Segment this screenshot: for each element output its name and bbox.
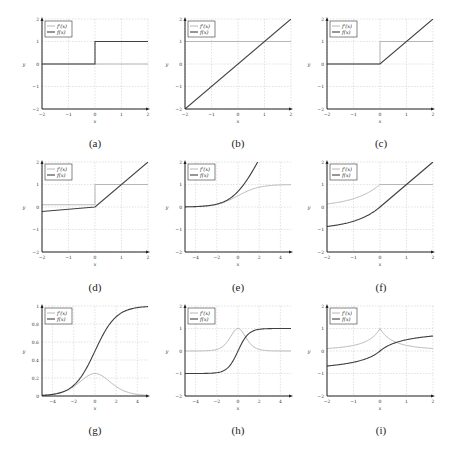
x-axis-arrow-icon [289,108,293,111]
x-axis-arrow-icon [431,251,435,254]
plots-canvas: −2−1012−2−1012xyf'(x)f(x)−2−1012−2−1012x… [0,0,452,454]
x-tick-label: 4 [136,399,139,404]
y-tick-label: 2 [179,160,182,165]
y-tick-label: 2 [321,304,324,309]
legend-function-label: f(x) [199,316,209,323]
x-tick-label: 1 [263,112,266,117]
y-axis-label: y [22,204,26,211]
x-tick-label: −1 [208,112,215,117]
y-tick-label: −1 [32,227,39,232]
legend: f'(x)f(x) [188,164,215,180]
x-tick-label: 4 [279,399,282,404]
x-tick-label: −2 [39,255,46,260]
x-tick-label: 2 [432,399,435,404]
x-axis-label: x [379,261,382,267]
plot-h: −4−2024−2−1012xyf'(x)f(x) [165,304,293,412]
x-tick-label: 2 [147,255,150,260]
legend-function-label: f(x) [56,316,66,323]
y-tick-label: 2 [179,17,182,22]
y-tick-label: 0 [321,205,324,210]
y-tick-label: 0 [36,62,39,67]
x-tick-label: −1 [350,255,357,260]
x-tick-label: 0 [379,112,382,117]
activation-function-figure: −2−1012−2−1012xyf'(x)f(x)−2−1012−2−1012x… [0,0,452,454]
x-axis-arrow-icon [289,395,293,398]
x-tick-label: 4 [279,255,282,260]
x-tick-label: 0 [237,112,240,117]
caption-a: (a) [75,137,115,149]
caption-b: (b) [218,137,258,149]
y-tick-label: 1 [321,326,324,331]
y-tick-label: 0.2 [32,376,39,381]
y-tick-label: −2 [175,107,182,112]
y-tick-label: −1 [317,227,324,232]
x-tick-label: −1 [65,255,72,260]
legend-function-label: f(x) [199,172,209,179]
legend-function-label: f(x) [199,29,209,36]
y-axis-label: y [22,348,26,355]
y-axis-label: y [22,61,26,68]
plot-d: −2−1012−2−1012xyf'(x)f(x) [22,160,150,268]
x-tick-label: −2 [324,399,331,404]
x-tick-label: 1 [405,255,408,260]
y-axis-label: y [307,61,311,68]
x-tick-label: 0 [94,399,97,404]
function-curve [42,42,148,65]
x-tick-label: −2 [39,112,46,117]
x-tick-label: 0 [94,112,97,117]
plot-g: −4−202400.20.40.60.81xyf'(x)f(x) [22,304,150,412]
derivative-curve [327,42,433,65]
plot-i: −2−1012−2−1012xyf'(x)f(x) [307,304,435,412]
legend: f'(x)f(x) [45,21,72,37]
y-tick-label: 0 [321,349,324,354]
x-axis-label: x [237,118,240,124]
x-axis-arrow-icon [431,395,435,398]
x-axis-label: x [237,405,240,411]
y-tick-label: −2 [317,394,324,399]
y-tick-label: 0 [179,349,182,354]
y-tick-label: −2 [175,250,182,255]
y-tick-label: 2 [321,160,324,165]
y-tick-label: 0 [179,205,182,210]
y-tick-label: 1 [36,39,39,44]
y-tick-label: 1 [179,326,182,331]
y-tick-label: 1 [36,304,39,309]
y-tick-label: 2 [321,17,324,22]
x-tick-label: 1 [405,399,408,404]
x-tick-label: 1 [120,255,123,260]
x-tick-label: 2 [432,112,435,117]
x-axis-label: x [379,405,382,411]
legend-function-label: f(x) [56,29,66,36]
x-tick-label: 2 [290,112,293,117]
y-tick-label: −1 [32,84,39,89]
caption-e: (e) [218,281,258,293]
x-tick-label: 1 [405,112,408,117]
x-tick-label: −2 [213,399,220,404]
x-tick-label: −1 [350,112,357,117]
x-axis-arrow-icon [146,251,150,254]
x-axis-arrow-icon [146,108,150,111]
y-tick-label: −1 [175,371,182,376]
x-tick-label: 2 [147,112,150,117]
legend: f'(x)f(x) [188,308,215,324]
caption-i: (i) [361,424,401,436]
y-tick-label: −2 [32,107,39,112]
x-tick-label: −4 [192,255,199,260]
y-tick-label: −2 [32,250,39,255]
x-tick-label: 0 [379,255,382,260]
y-tick-label: 0 [36,205,39,210]
legend: f'(x)f(x) [188,21,215,37]
legend-function-label: f(x) [341,172,351,179]
x-axis-label: x [94,118,97,124]
caption-g: (g) [75,424,115,436]
legend: f'(x)f(x) [330,308,357,324]
caption-d: (d) [75,281,115,293]
legend-function-label: f(x) [56,172,66,179]
derivative-curve [42,185,148,205]
y-axis-label: y [307,348,311,355]
x-tick-label: 2 [432,255,435,260]
x-tick-label: −2 [70,399,77,404]
plot-c: −2−1012−2−1012xyf'(x)f(x) [307,17,435,125]
y-tick-label: 0.6 [32,340,39,345]
x-axis-arrow-icon [431,108,435,111]
